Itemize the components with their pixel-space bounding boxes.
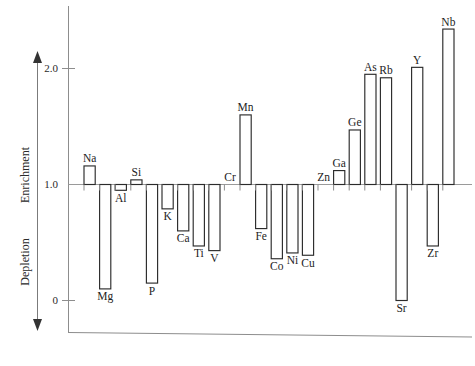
bar-k [162, 185, 173, 209]
bar-label-ca: Ca [177, 232, 190, 244]
x-axis-bottom-frame [69, 333, 473, 338]
bar-ga [334, 171, 345, 185]
y-tick-label-1: 1.0 [44, 178, 58, 190]
bar-nb [443, 29, 454, 184]
bar-mn [240, 115, 251, 185]
bar-label-ge: Ge [348, 116, 361, 128]
bar-label-ti: Ti [194, 247, 204, 259]
bar-zr [427, 185, 438, 246]
bar-al [115, 185, 126, 191]
bar-label-na: Na [83, 152, 96, 164]
enrichment-depletion-arrow [33, 51, 42, 331]
bar-label-al: Al [115, 192, 127, 204]
y-tick-label-0: 0 [53, 294, 59, 306]
bar-co [271, 185, 282, 259]
bar-label-p: P [149, 285, 155, 297]
bar-p [146, 185, 157, 284]
bar-fe [256, 185, 267, 229]
chart-figure: 2.0 1.0 0 Enrichment Depletion NaMgAlSiP… [0, 0, 475, 366]
bar-ge [349, 130, 360, 185]
bar-label-rb: Rb [379, 64, 393, 76]
bar-na [84, 166, 95, 185]
bar-ni [287, 185, 298, 253]
bar-sr [396, 185, 407, 301]
bar-label-sr: Sr [396, 302, 406, 314]
bar-label-ga: Ga [332, 157, 345, 169]
bar-label-si: Si [132, 166, 142, 178]
enrichment-depletion-bar-chart: 2.0 1.0 0 Enrichment Depletion NaMgAlSiP… [0, 0, 475, 366]
axis-title-depletion: Depletion [18, 238, 32, 285]
bar-v [209, 185, 220, 251]
bar-label-as: As [364, 61, 377, 73]
bar-label-zn: Zn [317, 171, 330, 183]
bar-y [412, 67, 423, 184]
bar-label-k: K [163, 210, 172, 222]
bar-ti [193, 185, 204, 246]
bar-cu [302, 185, 313, 256]
bar-label-mg: Mg [97, 290, 113, 303]
bar-mg [100, 185, 111, 289]
arrow-down-icon [33, 319, 42, 331]
bar-label-mn: Mn [238, 101, 254, 113]
bar-label-cu: Cu [301, 257, 315, 269]
bar-label-fe: Fe [255, 230, 267, 242]
y-tick-label-2: 2.0 [44, 62, 58, 74]
bar-label-cr: Cr [224, 171, 236, 183]
bar-label-nb: Nb [441, 16, 455, 28]
bar-label-co: Co [270, 260, 284, 272]
bar-label-v: V [210, 252, 219, 264]
bar-label-ni: Ni [287, 254, 299, 266]
bar-label-zr: Zr [427, 247, 438, 259]
bar-si [131, 180, 142, 185]
bar-as [365, 74, 376, 184]
bar-rb [380, 78, 391, 185]
bar-label-y: Y [413, 54, 422, 66]
arrow-up-icon [33, 51, 42, 63]
axis-title-enrichment: Enrichment [18, 146, 32, 203]
bars-layer [84, 29, 454, 300]
bar-ca [178, 185, 189, 231]
